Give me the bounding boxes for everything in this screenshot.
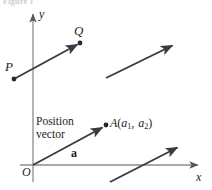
x-axis-label: x (196, 171, 201, 183)
figure-caption: Figure 1 (3, 0, 34, 6)
vector-pq-shaft (14, 45, 78, 80)
point-q-dot (78, 41, 83, 46)
origin-label: O (22, 166, 31, 178)
point-a-dot (104, 123, 109, 128)
vector-equivalent-upper-right-group (106, 46, 173, 79)
position-vector-annotation: Positionvector (36, 115, 74, 140)
vector-pq-group (12, 41, 83, 82)
point-a-label: A(a1, a2) (110, 117, 152, 131)
position-vector-annotation-line2: vector (36, 128, 74, 141)
point-a-close-paren: ) (148, 116, 152, 130)
vector-a-label: a (71, 147, 77, 159)
vector-equivalent-upper-right-shaft (106, 46, 173, 79)
point-a-comma: , (131, 116, 135, 130)
position-vector-annotation-line1: Position (36, 115, 74, 128)
point-q-label: Q (74, 24, 83, 37)
vector-figure: Figure 1 y x O P Q A(a1, a2) Positionvec… (0, 0, 212, 190)
y-axis-label: y (39, 8, 44, 20)
figure-canvas (0, 0, 212, 190)
point-p-label: P (5, 60, 13, 73)
point-p-dot (12, 77, 17, 82)
